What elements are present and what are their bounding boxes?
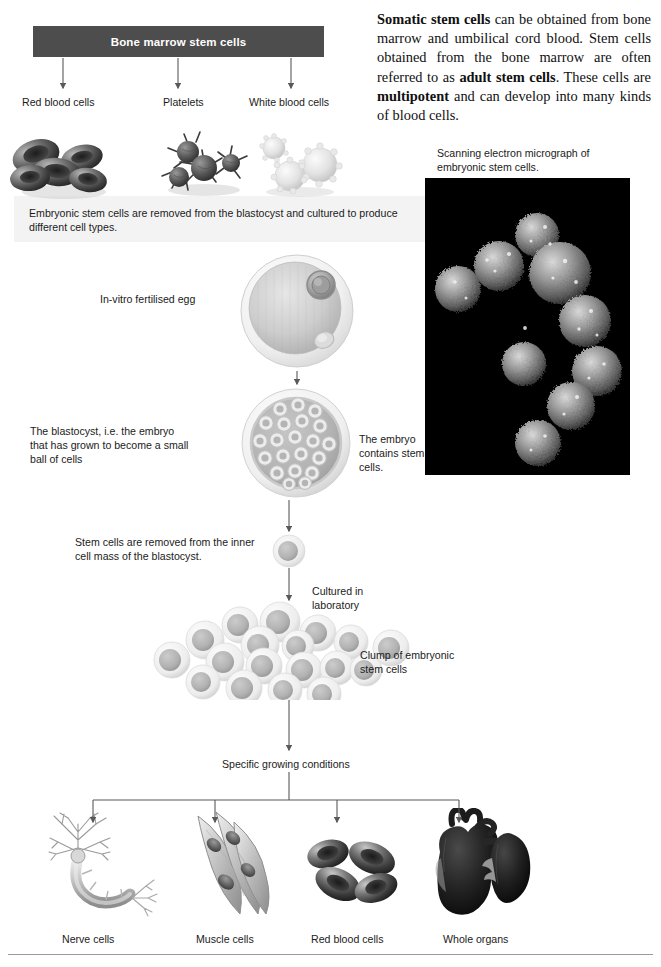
intro-bold-somatic: Somatic stem cells xyxy=(377,11,490,27)
red-blood-cells-illustration xyxy=(8,130,118,204)
platelets-illustration xyxy=(152,128,252,204)
label-blastocyst: The blastocyst, i.e. the embryo that has… xyxy=(30,424,190,466)
output-label-platelets: Platelets xyxy=(163,95,204,109)
label-clump-of-embryonic-stem-cells: Clump of embryonic stem cells xyxy=(360,648,455,676)
red-blood-cells-illustration-bottom xyxy=(306,832,402,920)
label-in-vitro-fertilised-egg: In-vitro fertilised egg xyxy=(100,292,195,306)
heart-and-kidney-illustration xyxy=(422,808,532,924)
intro-paragraph: Somatic stem cells can be obtained from … xyxy=(377,10,651,125)
fertilised-egg-illustration xyxy=(238,252,356,374)
intro-text-run-3: . These cells are xyxy=(556,69,651,85)
single-stem-cell-illustration xyxy=(272,534,306,572)
intro-bold-multipotent: multipotent xyxy=(377,88,449,104)
diff-label-whole-organs: Whole organs xyxy=(443,932,508,946)
muscle-cells-illustration xyxy=(186,810,272,924)
blastocyst-illustration xyxy=(241,387,351,503)
micrograph-image xyxy=(425,178,630,475)
label-specific-growing-conditions: Specific growing conditions xyxy=(222,757,350,771)
neuron-illustration xyxy=(48,812,158,922)
bone-marrow-banner-label: Bone marrow stem cells xyxy=(111,36,247,48)
label-cultured-in-laboratory: Cultured in laboratory xyxy=(312,584,380,612)
bone-marrow-banner: Bone marrow stem cells xyxy=(33,26,324,57)
embryonic-intro-text: Embryonic stem cells are removed from th… xyxy=(29,206,419,234)
diff-label-nerve-cells: Nerve cells xyxy=(62,932,114,946)
diff-label-muscle-cells: Muscle cells xyxy=(196,932,254,946)
output-label-red-blood-cells: Red blood cells xyxy=(22,95,94,109)
output-label-white-blood-cells: White blood cells xyxy=(249,95,329,109)
diff-label-red-blood-cells: Red blood cells xyxy=(311,932,383,946)
white-blood-cells-illustration xyxy=(252,132,344,204)
micrograph-caption: Scanning electron micrograph of embryoni… xyxy=(437,146,617,174)
label-embryo-contains-stem-cells: The embryo contains stem cells. xyxy=(359,432,429,474)
intro-bold-adult: adult stem cells xyxy=(459,69,555,85)
footer-divider xyxy=(8,954,653,955)
label-stem-cells-removed: Stem cells are removed from the inner ce… xyxy=(75,535,255,563)
